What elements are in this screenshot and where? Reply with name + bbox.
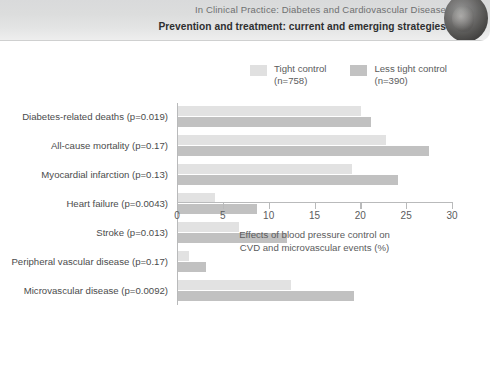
legend-swatch-icon (350, 65, 367, 76)
axis-tick-label: 20 (355, 210, 366, 221)
category-label: Heart failure (p=0.0043) (0, 198, 168, 209)
axis-tick (406, 202, 407, 209)
bar-tight-control (178, 106, 361, 116)
header-series-title: In Clinical Practice: Diabetes and Cardi… (116, 2, 446, 17)
category-axis-labels: Diabetes-related deaths (p=0.019)All-cau… (0, 103, 172, 305)
axis-tick-label: 25 (401, 210, 412, 221)
bar-less-tight-control (178, 117, 371, 127)
axis-tick (177, 202, 178, 209)
axis-tick (315, 202, 316, 209)
category-label: All-cause mortality (p=0.17) (0, 140, 168, 151)
bar-tight-control (178, 164, 352, 174)
axis-tick-label: 0 (174, 210, 180, 221)
bar-less-tight-control (178, 262, 206, 272)
bar-less-tight-control (178, 175, 398, 185)
bar-group (178, 164, 453, 185)
legend-item-tight-control: Tight control (n=758) (250, 63, 326, 87)
legend-swatch-icon (250, 65, 267, 76)
axis-tick-label: 5 (220, 210, 226, 221)
axis-title: Effects of blood pressure control on CVD… (239, 228, 390, 254)
chart-legend: Tight control (n=758) Less tight control… (250, 63, 447, 87)
bar-group (178, 280, 453, 301)
category-label: Peripheral vascular disease (p=0.17) (0, 256, 168, 267)
legend-label-line1: Less tight control (374, 63, 447, 74)
axis-tick (360, 202, 361, 209)
page-header-band: In Clinical Practice: Diabetes and Cardi… (0, 0, 490, 41)
axis-tick (223, 202, 224, 209)
axis-tick-label: 10 (263, 210, 274, 221)
bar-tight-control (178, 280, 291, 290)
bar-less-tight-control (178, 146, 429, 156)
axis-tick (269, 202, 270, 209)
bar-group (178, 106, 453, 127)
circular-photo-emblem-icon (444, 0, 488, 41)
header-chapter-title: Prevention and treatment: current and em… (116, 19, 446, 34)
legend-label-line1: Tight control (274, 63, 326, 74)
category-label: Microvascular disease (p=0.0092) (0, 285, 168, 296)
axis-title-line2: CVD and microvascular events (%) (239, 241, 390, 254)
category-label: Myocardial infarction (p=0.13) (0, 169, 168, 180)
legend-label-line2: (n=758) (274, 75, 307, 86)
legend-label-line2: (n=390) (374, 75, 407, 86)
legend-label-less-tight-control: Less tight control (n=390) (374, 63, 447, 87)
category-label: Stroke (p=0.013) (0, 227, 168, 238)
legend-label-tight-control: Tight control (n=758) (274, 63, 326, 87)
axis-tick-label: 15 (309, 210, 320, 221)
axis-tick (452, 202, 453, 209)
bar-tight-control (178, 135, 386, 145)
header-text-group: In Clinical Practice: Diabetes and Cardi… (116, 2, 446, 34)
axis-tick-label: 30 (446, 210, 457, 221)
category-label: Diabetes-related deaths (p=0.019) (0, 111, 168, 122)
bar-group (178, 135, 453, 156)
legend-item-less-tight-control: Less tight control (n=390) (350, 63, 447, 87)
axis-title-line1: Effects of blood pressure control on (239, 228, 390, 241)
bar-less-tight-control (178, 291, 354, 301)
value-axis: Effects of blood pressure control on CVD… (177, 202, 452, 262)
